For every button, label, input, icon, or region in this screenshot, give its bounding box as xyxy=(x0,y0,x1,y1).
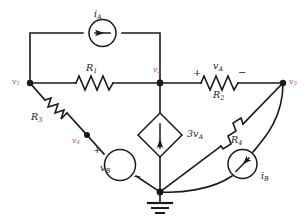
label-ia: iA xyxy=(94,9,102,20)
resistor-r3-symbol xyxy=(45,98,67,119)
label-r3: R3 xyxy=(31,112,42,123)
node-label-v3: v3 xyxy=(289,78,297,87)
label-vb: vB xyxy=(100,163,110,174)
label-ib: iB xyxy=(261,171,269,182)
resistor-r1-symbol xyxy=(76,76,113,90)
circuit-schematic-svg xyxy=(0,0,307,224)
resistor-r2-symbol xyxy=(201,76,238,90)
label-dependent-source: 3vA xyxy=(187,129,203,140)
node-dot-v1 xyxy=(27,80,33,86)
node-label-v4: v4 xyxy=(72,137,80,146)
node-dot-ground xyxy=(157,189,164,196)
node-label-v1: v1 xyxy=(12,78,20,87)
current-source-ib-symbol xyxy=(228,150,257,179)
label-r4: R4 xyxy=(231,135,242,146)
node-dot-v2 xyxy=(157,80,164,87)
label-r2: R2 xyxy=(213,90,224,101)
node-dot-v4 xyxy=(84,132,90,138)
polarity-vb-plus: + xyxy=(93,145,101,155)
node-dot-v3 xyxy=(280,80,286,86)
dependent-source-symbol xyxy=(138,113,182,157)
current-source-ia-symbol xyxy=(89,20,116,47)
label-r1: R1 xyxy=(86,63,97,74)
polarity-va-minus: − xyxy=(238,68,246,78)
circuit-diagram: v1 v2 v3 v4 iA R1 R2 R3 R4 vA vB iB 3vA … xyxy=(0,0,307,224)
polarity-vb-minus: − xyxy=(133,172,141,182)
node-label-v2: v2 xyxy=(153,66,161,75)
polarity-va-plus: + xyxy=(193,68,201,78)
label-va: vA xyxy=(213,61,223,72)
